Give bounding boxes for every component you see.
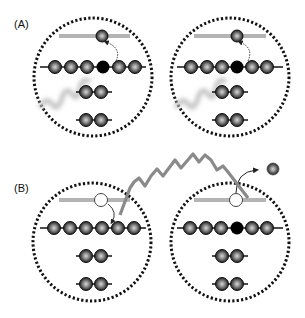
atom-icon: [95, 250, 108, 263]
ejected-atom-icon: [267, 163, 279, 175]
atom-icon: [80, 222, 93, 235]
atom-icon: [216, 86, 229, 99]
atom-icon: [231, 250, 244, 263]
panel-b-circle-2: [171, 163, 289, 301]
atom-icon: [246, 222, 259, 235]
atom-icon: [201, 61, 214, 74]
atom-icon: [261, 222, 274, 235]
atom-icon: [216, 114, 229, 127]
atom-icon: [81, 61, 94, 74]
filled-atom-icon: [231, 61, 244, 74]
atom-icon: [112, 222, 125, 235]
filled-atom-icon: [97, 61, 110, 74]
filled-atom-icon: [231, 222, 244, 235]
panel-a-circle-1: [34, 18, 152, 136]
atom-icon: [129, 61, 142, 74]
atom-icon: [185, 61, 198, 74]
atom-icon: [246, 61, 259, 74]
atom-icon: [49, 61, 62, 74]
atom-icon: [215, 222, 228, 235]
atom-icon: [216, 278, 229, 291]
hole-icon: [95, 194, 108, 207]
panel-a-circle-2: [171, 18, 289, 136]
atom-icon: [95, 278, 108, 291]
transition-arrow-icon: [108, 204, 114, 222]
atom-icon: [216, 250, 229, 263]
atom-icon: [128, 222, 141, 235]
panel-b-circle-1: [33, 183, 151, 301]
atom-icon: [80, 86, 93, 99]
adatom-icon: [96, 30, 108, 42]
atom-icon: [95, 86, 108, 99]
transition-arrow-icon: [106, 42, 118, 61]
atom-icon: [200, 222, 213, 235]
atom-icon: [113, 61, 126, 74]
atom-icon: [96, 222, 109, 235]
atom-icon: [80, 114, 93, 127]
atom-icon: [184, 222, 197, 235]
atom-icon: [231, 278, 244, 291]
atom-icon: [80, 250, 93, 263]
transition-arrow-icon: [240, 42, 250, 61]
atom-icon: [64, 222, 77, 235]
diagram-canvas: [0, 0, 305, 318]
ejection-arrow-icon: [236, 170, 256, 193]
atom-icon: [261, 61, 274, 74]
atom-icon: [95, 114, 108, 127]
adatom-icon: [231, 30, 243, 42]
hole-icon: [230, 194, 243, 207]
atom-icon: [231, 86, 244, 99]
atom-icon: [65, 61, 78, 74]
atom-icon: [231, 114, 244, 127]
atom-icon: [216, 61, 229, 74]
atom-icon: [48, 222, 61, 235]
atom-icon: [80, 278, 93, 291]
